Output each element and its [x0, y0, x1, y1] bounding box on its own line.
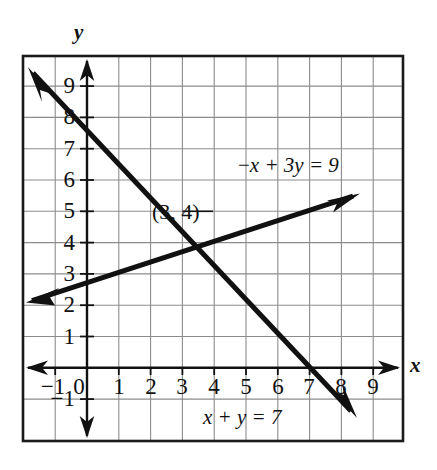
y-tick-label-8: 8	[51, 105, 75, 128]
equation-label-line-a-sign: −	[238, 153, 250, 177]
y-tick-label-neg1: −1	[42, 387, 75, 410]
y-tick-label-5: 5	[51, 199, 75, 222]
x-tick-label-2: 2	[138, 375, 164, 398]
y-tick-label-1: 1	[51, 325, 75, 348]
x-tick-label-4: 4	[201, 375, 227, 398]
x-tick-label-9: 9	[360, 375, 386, 398]
intersection-point-label: (3, 4)	[152, 201, 200, 223]
equation-label-line-b: x + y = 7	[203, 407, 281, 428]
x-axis-label: x	[410, 355, 421, 376]
x-tick-label-5: 5	[233, 375, 259, 398]
equation-label-line-a-text: x + 3y = 9	[250, 153, 339, 177]
y-tick-label-6: 6	[51, 168, 75, 191]
y-tick-label-2: 2	[51, 293, 75, 316]
equation-label-line-a: −x + 3y = 9	[238, 155, 339, 176]
y-tick-label-4: 4	[51, 231, 75, 254]
x-tick-label-7: 7	[296, 375, 322, 398]
y-tick-label-9: 9	[51, 74, 75, 97]
y-tick-label-3: 3	[51, 262, 75, 285]
y-axis-label: y	[74, 22, 83, 43]
x-tick-label-3: 3	[169, 375, 195, 398]
x-tick-label-8: 8	[328, 375, 354, 398]
x-tick-label-6: 6	[265, 375, 291, 398]
equation-label-line-b-text: x + y = 7	[203, 405, 281, 429]
y-tick-label-7: 7	[51, 137, 75, 160]
x-tick-label-1: 1	[106, 375, 132, 398]
